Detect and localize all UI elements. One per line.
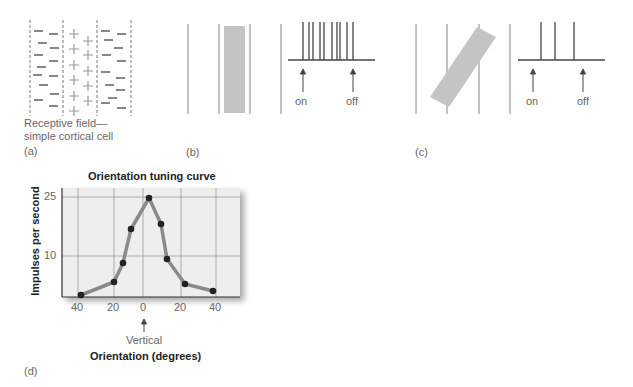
caption-line-2: simple cortical cell: [24, 130, 113, 143]
receptive-field-diagram: [0, 0, 633, 387]
panel-d-label: (d): [24, 365, 37, 377]
x-axis-title: Orientation (degrees): [90, 350, 201, 362]
vertical-annotation: Vertical: [126, 334, 162, 346]
panel-a-label: (a): [24, 145, 37, 157]
vertical-arrow-icon: [142, 319, 147, 332]
panel-b-label: (b): [186, 146, 199, 158]
tilted-bar-stimulus: [430, 27, 496, 107]
off-label: off: [577, 95, 589, 107]
panel-c-spikes: [518, 22, 605, 60]
receptive-field-caption: Receptive field— simple cortical cell: [24, 117, 113, 143]
x-tick-20: 20: [174, 301, 186, 313]
x-tick-40: 40: [209, 301, 221, 313]
off-label: off: [346, 95, 358, 107]
inhibitory-minus-signs: [33, 31, 126, 108]
panel-b-spikes: [288, 22, 375, 60]
vertical-bar-stimulus: [224, 26, 245, 113]
y-tick-10: 10: [44, 249, 56, 261]
caption-line-1: Receptive field—: [24, 117, 113, 130]
chart-title: Orientation tuning curve: [88, 170, 216, 182]
panel-b-arrows: [301, 69, 356, 92]
x-tick-neg40: 40: [71, 301, 83, 313]
panel-c-arrows: [531, 69, 586, 92]
x-tick-0: 0: [140, 301, 146, 313]
excitatory-plus-signs: [69, 29, 93, 116]
panel-c-label: (c): [415, 146, 428, 158]
y-tick-25: 25: [44, 190, 56, 202]
y-axis-title: Impulses per second: [29, 181, 41, 301]
on-label: on: [526, 95, 538, 107]
on-label: on: [295, 95, 307, 107]
x-tick-neg20: 20: [107, 301, 119, 313]
